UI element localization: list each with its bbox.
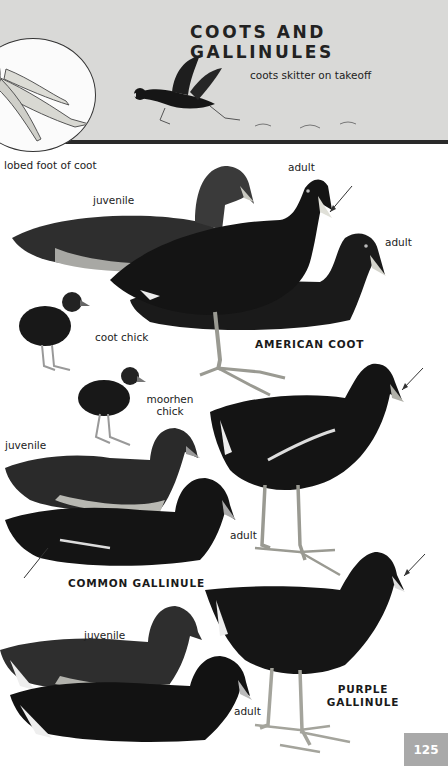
purple-gallinule-juvenile	[0, 606, 202, 693]
common-gallinule-species-name: COMMON GALLINULE	[68, 577, 205, 589]
coot-chick-label: coot chick	[95, 331, 148, 343]
gallinule-adult-label: adult	[230, 529, 257, 541]
gallinule-juvenile-label: juvenile	[5, 439, 46, 451]
moorhen-chick-label: moorhen chick	[146, 393, 194, 417]
moorhen-chick-label-line2: chick	[146, 405, 194, 417]
purple-juvenile-label: juvenile	[84, 629, 125, 641]
bird-illustrations	[0, 0, 448, 766]
coot-chick	[19, 292, 90, 370]
purple-gallinule-species-name: PURPLE GALLINULE	[326, 683, 400, 709]
purple-adult-label: adult	[234, 705, 261, 717]
coot-juvenile-label: juvenile	[93, 194, 134, 206]
coot-takeoff-illustration	[130, 55, 356, 128]
purple-gallinule-name-line1: PURPLE	[326, 683, 400, 696]
coot-adult-standing-label: adult	[288, 161, 315, 173]
moorhen-chick-label-line1: moorhen	[146, 393, 194, 405]
purple-gallinule-adult-standing	[205, 552, 405, 752]
coot-adult-swimming-label: adult	[385, 236, 412, 248]
page-number-tab: 125	[404, 733, 448, 766]
american-coot-species-name: AMERICAN COOT	[255, 338, 364, 350]
page-number: 125	[413, 743, 438, 757]
moorhen-chick	[78, 367, 146, 445]
common-gallinule-adult-standing	[210, 364, 404, 575]
purple-gallinule-name-line2: GALLINULE	[326, 696, 400, 709]
